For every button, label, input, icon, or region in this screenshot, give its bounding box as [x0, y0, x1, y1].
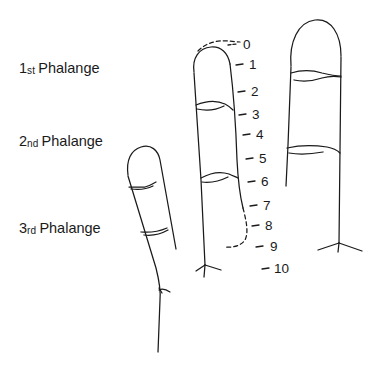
- scale-tick-2: [238, 91, 245, 92]
- finger-line-drawing: [0, 0, 378, 370]
- scale-tick-3: [239, 114, 246, 115]
- scale-tick-marks: [228, 44, 269, 269]
- left-finger-creases: [129, 182, 168, 235]
- scale-tick-10: [262, 268, 269, 269]
- middle-finger-creases: [196, 101, 238, 182]
- middle-finger-crease-lower-2: [202, 177, 228, 182]
- scale-tick-1: [236, 64, 243, 65]
- left-finger-outline: [128, 146, 176, 352]
- scale-tick-5: [246, 158, 253, 159]
- middle-finger-crease-upper-2: [197, 106, 224, 110]
- right-finger-crease-upper-2: [294, 76, 341, 81]
- scale-tick-7: [250, 205, 257, 206]
- scale-tick-4: [243, 134, 250, 135]
- right-finger-base-web: [318, 243, 362, 252]
- middle-finger-tip-dashed-leader: [198, 41, 240, 51]
- middle-finger-crease-lower: [201, 173, 238, 178]
- scale-tick-8: [252, 225, 259, 226]
- scale-tick-0: [228, 44, 237, 45]
- middle-finger-base-web: [196, 265, 221, 277]
- middle-finger-outline: [194, 47, 243, 265]
- scale-tick-6: [248, 181, 255, 182]
- right-finger-outline: [286, 20, 341, 243]
- phalange-diagram-figure: 1stPhalange 2ndPhalange 3rdPhalange 0123…: [0, 0, 378, 370]
- middle-finger-lower-dashed-edge: [224, 208, 247, 247]
- right-finger-crease-upper: [291, 71, 341, 76]
- right-finger-crease-lower-2: [289, 152, 323, 154]
- right-finger-creases: [287, 71, 341, 154]
- scale-tick-9: [256, 246, 263, 247]
- right-finger-crease-lower: [287, 146, 340, 153]
